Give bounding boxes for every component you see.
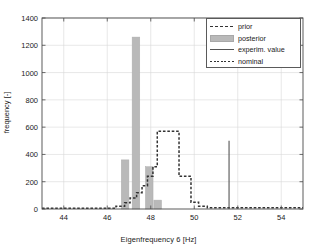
x-tick-label: 44: [60, 213, 68, 222]
legend-label: prior: [238, 22, 252, 31]
y-tick-label: 200: [25, 177, 38, 186]
legend-item-prior: prior: [207, 21, 300, 33]
y-tick-label: 0: [34, 205, 38, 214]
figure-canvas: frequency [-] Eigenfrequency 6 [Hz] 4446…: [0, 0, 317, 252]
dashed-line-icon: [210, 22, 234, 31]
x-tick-label: 52: [234, 213, 242, 222]
y-tick-label: 1400: [21, 14, 38, 23]
legend-item-experim-value: experim. value: [207, 44, 300, 56]
chart-legend: prior posterior experim. value nominal: [206, 18, 301, 68]
posterior-bar: [132, 37, 140, 209]
legend-item-posterior: posterior: [207, 33, 300, 45]
legend-item-nominal: nominal: [207, 56, 300, 68]
solid-line-icon: [210, 45, 234, 54]
filled-patch-icon: [210, 34, 234, 43]
y-axis-label: frequency [-]: [2, 83, 11, 143]
x-tick-label: 50: [190, 213, 198, 222]
posterior-bar: [154, 200, 162, 209]
posterior-bar: [145, 167, 153, 209]
y-tick-label: 400: [25, 150, 38, 159]
x-tick-label: 48: [147, 213, 155, 222]
y-tick-label: 1200: [21, 41, 38, 50]
x-axis-label: Eigenfrequency 6 [Hz]: [0, 235, 317, 244]
prior-step-curve: [42, 131, 303, 208]
y-tick-label: 600: [25, 123, 38, 132]
y-tick-label: 800: [25, 95, 38, 104]
x-tick-label: 54: [277, 213, 285, 222]
legend-label: posterior: [238, 34, 266, 43]
y-tick-label: 1000: [21, 68, 38, 77]
dashed-line-icon: [210, 57, 234, 66]
x-tick-label: 46: [103, 213, 111, 222]
legend-label: experim. value: [238, 45, 285, 54]
posterior-bar: [121, 160, 129, 209]
legend-label: nominal: [238, 57, 263, 66]
